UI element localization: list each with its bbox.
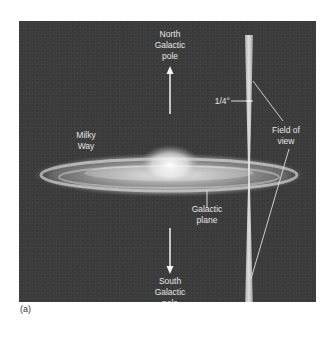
diagram-panel: North Galactic pole Milky Way Galactic p…	[19, 21, 316, 302]
north-arrow-icon	[167, 66, 174, 114]
field-of-view-label: Field of view	[258, 125, 314, 147]
south-galactic-pole-label: South Galactic pole	[147, 276, 193, 302]
figure-caption: (a)	[20, 304, 31, 314]
south-arrow-icon	[167, 228, 174, 274]
galactic-plane-label: Galactic plane	[183, 204, 231, 226]
angle-label: 1/4°	[204, 96, 230, 107]
north-galactic-pole-label: North Galactic pole	[147, 29, 193, 62]
galaxy-illustration	[19, 21, 316, 302]
milky-way-label: Milky Way	[66, 130, 106, 152]
galactic-bulge	[140, 143, 200, 183]
